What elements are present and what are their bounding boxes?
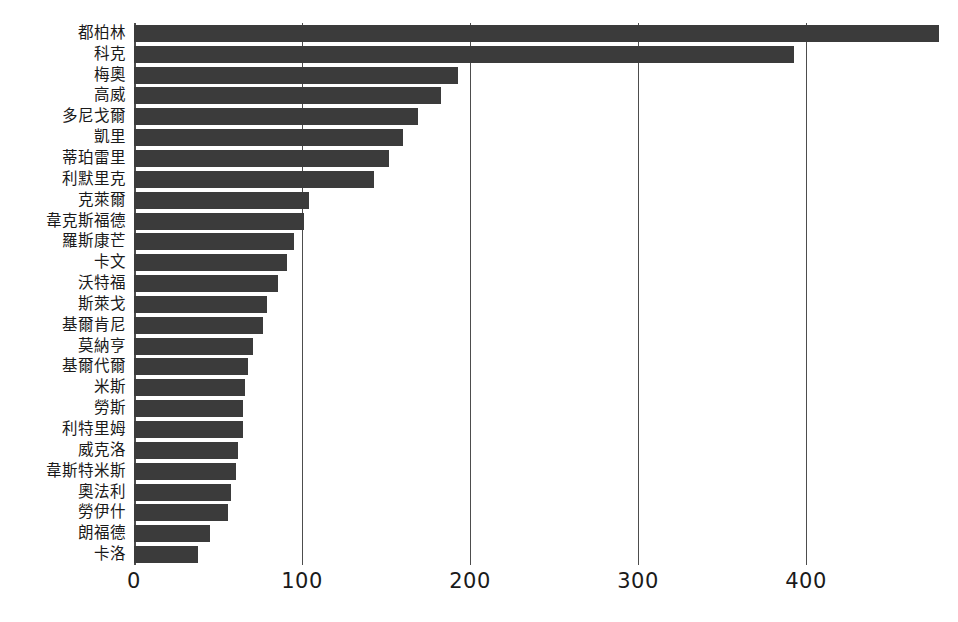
bar[interactable] (134, 150, 389, 167)
bar-fill (134, 296, 267, 313)
bar[interactable] (134, 546, 198, 563)
bar[interactable] (134, 400, 243, 417)
bar-fill (134, 379, 245, 396)
category-label: 羅斯康芒 (0, 233, 126, 250)
category-label: 米斯 (0, 379, 126, 396)
plot-area (134, 23, 946, 565)
bar-fill (134, 67, 458, 84)
category-label: 科克 (0, 46, 126, 63)
bar-fill (134, 46, 794, 63)
bar-fill (134, 275, 278, 292)
bar[interactable] (134, 525, 210, 542)
bar-fill (134, 192, 309, 209)
category-label: 奧法利 (0, 484, 126, 501)
gridline-400 (806, 23, 807, 565)
bar-fill (134, 338, 253, 355)
category-label: 梅奧 (0, 67, 126, 84)
bar-fill (134, 87, 441, 104)
bar[interactable] (134, 421, 243, 438)
bar-fill (134, 442, 238, 459)
bar-fill (134, 150, 389, 167)
category-label: 卡洛 (0, 546, 126, 563)
category-label: 沃特福 (0, 275, 126, 292)
category-label: 都柏林 (0, 25, 126, 42)
bar[interactable] (134, 108, 418, 125)
category-label: 韋斯特米斯 (0, 463, 126, 480)
bar[interactable] (134, 46, 794, 63)
category-label: 基爾肯尼 (0, 317, 126, 334)
bar[interactable] (134, 463, 236, 480)
category-label: 利默里克 (0, 171, 126, 188)
bar-fill (134, 358, 248, 375)
bar-fill (134, 525, 210, 542)
x-tick-label: 100 (281, 569, 323, 593)
bar-fill (134, 400, 243, 417)
bar-fill (134, 421, 243, 438)
bar[interactable] (134, 87, 441, 104)
bar[interactable] (134, 379, 245, 396)
bar[interactable] (134, 129, 403, 146)
category-label: 斯萊戈 (0, 296, 126, 313)
category-label: 克萊爾 (0, 192, 126, 209)
bar-fill (134, 254, 287, 271)
bar[interactable] (134, 213, 304, 230)
bar-fill (134, 108, 418, 125)
gridline-300 (638, 23, 639, 565)
bar[interactable] (134, 171, 374, 188)
x-tick-label: 300 (617, 569, 659, 593)
category-label: 韋克斯福德 (0, 213, 126, 230)
category-axis-labels: 都柏林科克梅奧高威多尼戈爾凱里蒂珀雷里利默里克克萊爾韋克斯福德羅斯康芒卡文沃特福… (0, 23, 126, 565)
category-label: 卡文 (0, 254, 126, 271)
bar-fill (134, 484, 231, 501)
bar[interactable] (134, 484, 231, 501)
category-label: 威克洛 (0, 442, 126, 459)
bar[interactable] (134, 233, 294, 250)
bar[interactable] (134, 67, 458, 84)
bar-fill (134, 546, 198, 563)
category-label: 蒂珀雷里 (0, 150, 126, 167)
bar[interactable] (134, 442, 238, 459)
bar[interactable] (134, 254, 287, 271)
category-label: 凱里 (0, 129, 126, 146)
bar[interactable] (134, 317, 263, 334)
bar-fill (134, 233, 294, 250)
category-label: 多尼戈爾 (0, 108, 126, 125)
bar-fill (134, 171, 374, 188)
category-label: 勞斯 (0, 400, 126, 417)
x-tick-label: 400 (785, 569, 827, 593)
bar[interactable] (134, 296, 267, 313)
category-label: 基爾代爾 (0, 358, 126, 375)
category-label: 高威 (0, 87, 126, 104)
x-axis: 0100200300400 (134, 565, 946, 605)
category-label: 勞伊什 (0, 504, 126, 521)
bar-fill (134, 25, 939, 42)
bar-fill (134, 129, 403, 146)
x-tick-label: 0 (127, 569, 141, 593)
bar-fill (134, 317, 263, 334)
x-tick-label: 200 (449, 569, 491, 593)
bar-fill (134, 463, 236, 480)
bar-chart: 都柏林科克梅奧高威多尼戈爾凱里蒂珀雷里利默里克克萊爾韋克斯福德羅斯康芒卡文沃特福… (0, 0, 958, 622)
bar[interactable] (134, 275, 278, 292)
category-label: 利特里姆 (0, 421, 126, 438)
bar[interactable] (134, 358, 248, 375)
gridline-200 (470, 23, 471, 565)
bar-fill (134, 213, 304, 230)
bar[interactable] (134, 25, 939, 42)
bar-fill (134, 504, 228, 521)
category-label: 莫納亨 (0, 338, 126, 355)
bar[interactable] (134, 504, 228, 521)
category-label: 朗福德 (0, 525, 126, 542)
bar[interactable] (134, 338, 253, 355)
bar[interactable] (134, 192, 309, 209)
